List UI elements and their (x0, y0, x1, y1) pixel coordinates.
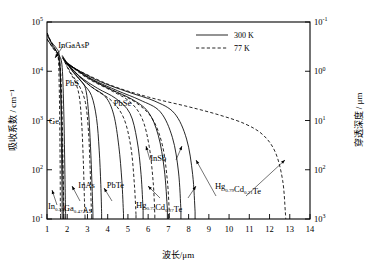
y-tick-label-2: 102 (32, 164, 44, 175)
x-tick-label-12: 12 (265, 224, 274, 234)
annotation-hg0.79cd0.21te: Hg0.79Cd0.21Te (215, 181, 261, 195)
annotation-pbse: PbSe (114, 98, 132, 108)
annotation-inas: InAs (78, 180, 95, 190)
annotation-insb: InSb (150, 153, 166, 163)
leader-arrowhead-4 (146, 146, 149, 150)
leader-arrowhead-7 (193, 186, 196, 190)
y-tick-label-5: 105 (32, 16, 44, 27)
y2-tick-label-2: 102 (314, 164, 326, 175)
x-tick-label-3: 3 (85, 224, 89, 234)
x-tick-label-14: 14 (306, 224, 315, 234)
y2-tick-label-3: 103 (314, 213, 326, 224)
y-axis-right-title: 穿透深度 / μm (353, 93, 364, 148)
x-tick-label-9: 9 (207, 224, 211, 234)
x-tick-label-6: 6 (146, 224, 150, 234)
chart-container: 101102103104105 10-1100101102103 1234567… (0, 0, 376, 272)
series-annotations: InGaAsPPbSGePbSePbTeInAsInSbIn0.53Ga0.47… (48, 40, 261, 216)
legend-label-300k: 300 K (234, 31, 254, 40)
y-axis-left-title: 吸收系数 / cm⁻¹ (7, 89, 18, 151)
x-axis-title: 波长/μm (162, 249, 194, 260)
leader-arrowhead-2 (72, 186, 75, 190)
curve-Hg079Cd021Te-77K (67, 65, 285, 219)
x-tick-label-5: 5 (126, 224, 130, 234)
y2-tick-label-1: 101 (314, 115, 326, 126)
y2-tick-label--1: 10-1 (314, 16, 328, 27)
leader-arrowhead-5 (179, 146, 182, 150)
legend: 300 K 77 K (196, 31, 254, 53)
x-tick-label-7: 7 (166, 224, 170, 234)
y-tick-label-1: 101 (32, 213, 44, 224)
legend-label-77k: 77 K (234, 44, 250, 53)
annotation-pbte: PbTe (107, 180, 125, 190)
leader-line-8 (196, 160, 216, 196)
y-tick-label-4: 104 (32, 66, 44, 77)
leader-arrowhead-8 (196, 160, 199, 164)
y2-tick-label-0: 100 (314, 66, 326, 77)
x-tick-label-2: 2 (65, 224, 69, 234)
x-tick-label-11: 11 (245, 224, 253, 234)
x-tick-label-4: 4 (106, 224, 111, 234)
x-tick-label-10: 10 (225, 224, 234, 234)
x-tick-label-8: 8 (186, 224, 190, 234)
annotation-ge: Ge (49, 116, 59, 126)
annotation-pbs: PbS (65, 78, 79, 88)
x-tick-label-1: 1 (45, 224, 49, 234)
annotation-in0.53ga0.47as: In0.53Ga0.47As (48, 201, 92, 215)
x-tick-label-13: 13 (286, 224, 295, 234)
annotation-ingaasp: InGaAsP (58, 40, 89, 50)
y-tick-label-3: 103 (32, 115, 44, 126)
y-axis-right-ticks: 10-1100101102103 (305, 16, 328, 224)
leader-arrowhead-1 (52, 190, 55, 194)
absorption-coefficient-chart: 101102103104105 10-1100101102103 1234567… (0, 0, 376, 272)
